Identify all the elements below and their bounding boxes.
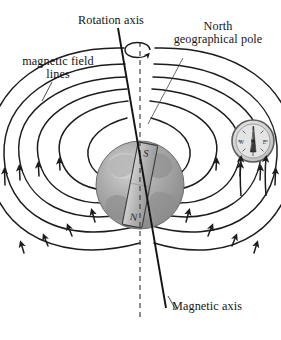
label-north-line1: North — [204, 19, 233, 33]
field-arrow — [21, 243, 24, 253]
field-line-arrowheads-left — [5, 160, 96, 253]
label-north-line2: geographical pole — [174, 32, 263, 46]
diagram-canvas: S N W E — [0, 0, 281, 340]
rotation-arrow-icon — [125, 43, 150, 58]
label-magnetic-axis: Magnetic axis — [172, 300, 242, 313]
field-lines-at-compass — [240, 158, 266, 196]
field-arrow — [5, 170, 6, 185]
label-magnetic-field-lines: magnetic field lines — [8, 55, 108, 81]
label-north-geographical-pole: North geographical pole — [160, 20, 276, 46]
field-arrow — [216, 160, 217, 170]
compass[interactable]: W E — [232, 120, 274, 162]
label-field-lines-line2: lines — [46, 67, 70, 81]
field-arrow — [275, 170, 276, 185]
field-arrow — [254, 243, 257, 253]
field-arrow — [59, 160, 60, 170]
field-arrow — [260, 167, 261, 180]
label-rotation-axis: Rotation axis — [78, 14, 144, 27]
field-arrow — [19, 167, 20, 180]
leader-north-pole — [148, 58, 183, 124]
field-line — [265, 158, 266, 196]
compass-west-label: W — [239, 139, 245, 145]
compass-east-label: E — [263, 139, 267, 145]
field-line-arrowheads-right — [186, 160, 276, 253]
field-line — [240, 158, 241, 196]
label-field-lines-line1: magnetic field — [22, 54, 93, 68]
field-arrow — [68, 226, 72, 236]
field-arrow — [38, 164, 39, 176]
